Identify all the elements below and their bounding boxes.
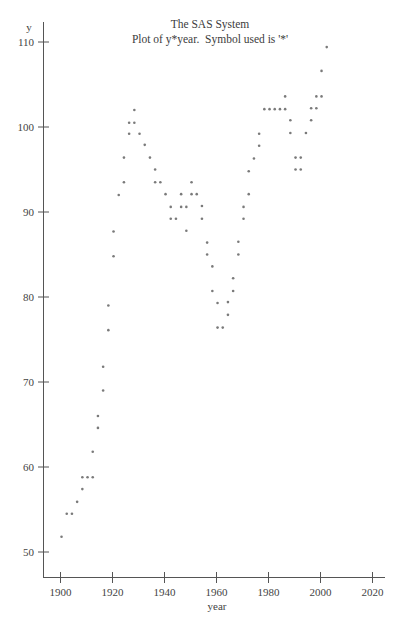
data-point-asterisk <box>201 205 204 208</box>
data-point-asterisk <box>128 121 131 124</box>
data-point-asterisk <box>206 241 209 244</box>
data-point-asterisk <box>112 255 115 258</box>
data-point-asterisk <box>149 156 152 159</box>
data-point-asterisk <box>91 450 94 453</box>
data-point-asterisk <box>310 107 313 110</box>
data-point-asterisk <box>123 181 126 184</box>
data-point-asterisk <box>71 512 74 515</box>
data-point-asterisk <box>242 218 245 221</box>
data-point-asterisk <box>221 326 224 329</box>
data-point-asterisk <box>211 265 214 268</box>
data-point-asterisk <box>102 365 105 368</box>
data-point-asterisk <box>195 193 198 196</box>
data-point-asterisk <box>185 229 188 232</box>
data-point-asterisk <box>81 488 84 491</box>
data-point-asterisk <box>154 168 157 171</box>
data-point-asterisk <box>279 108 282 111</box>
data-point-asterisk <box>242 206 245 209</box>
data-point-asterisk <box>201 218 204 221</box>
data-point-asterisk <box>117 194 120 197</box>
data-point-asterisk <box>133 109 136 112</box>
data-point-asterisk <box>190 181 193 184</box>
scatter-plot: y 5060708090100110 190019201940196019802… <box>0 0 397 622</box>
data-point-asterisk <box>107 304 110 307</box>
data-point-asterisk <box>86 476 89 479</box>
x-tick-label: 1980 <box>258 586 281 598</box>
data-point-asterisk <box>237 253 240 256</box>
data-point-asterisk <box>175 218 178 221</box>
data-point-asterisk <box>97 427 100 430</box>
data-point-asterisk <box>112 230 115 233</box>
data-point-asterisk <box>143 144 146 147</box>
data-point-asterisk <box>81 476 84 479</box>
data-point-asterisk <box>310 119 313 122</box>
x-tick-label: 1900 <box>50 586 73 598</box>
data-point-asterisk <box>123 156 126 159</box>
y-axis: y 5060708090100110 <box>18 21 50 578</box>
data-point-asterisk <box>305 132 308 135</box>
data-point-asterisk <box>237 240 240 243</box>
data-point-asterisk <box>128 133 131 136</box>
x-tick-label: 1960 <box>206 586 229 598</box>
data-point-asterisk <box>216 302 219 305</box>
y-tick-label: 70 <box>23 376 35 388</box>
y-axis-label: y <box>26 21 32 33</box>
data-point-asterisk <box>289 119 292 122</box>
data-point-asterisk <box>232 290 235 293</box>
data-point-asterisk <box>320 95 323 98</box>
data-point-asterisk <box>315 107 318 110</box>
data-point-asterisk <box>289 132 292 135</box>
data-point-asterisk <box>320 70 323 73</box>
data-point-asterisk <box>159 181 162 184</box>
data-point-asterisk <box>107 329 110 332</box>
data-point-asterisk <box>294 156 297 159</box>
x-tick-label: 2000 <box>310 586 333 598</box>
x-axis-label: year <box>208 600 227 612</box>
data-point-asterisk <box>284 95 287 98</box>
data-point-asterisk <box>232 277 235 280</box>
data-point-asterisk <box>138 133 141 136</box>
data-points <box>60 46 328 538</box>
data-point-asterisk <box>206 253 209 256</box>
data-point-asterisk <box>91 476 94 479</box>
y-tick-label: 80 <box>23 291 35 303</box>
data-point-asterisk <box>258 133 261 136</box>
data-point-asterisk <box>294 168 297 171</box>
data-point-asterisk <box>154 181 157 184</box>
x-tick-label: 2020 <box>362 586 385 598</box>
y-tick-label: 60 <box>23 461 35 473</box>
y-tick-label: 110 <box>18 36 35 48</box>
data-point-asterisk <box>284 108 287 111</box>
y-tick-label: 100 <box>18 121 35 133</box>
data-point-asterisk <box>133 121 136 124</box>
data-point-asterisk <box>258 144 261 147</box>
data-point-asterisk <box>299 156 302 159</box>
data-point-asterisk <box>211 290 214 293</box>
data-point-asterisk <box>247 193 250 196</box>
data-point-asterisk <box>253 157 256 160</box>
x-tick-label: 1920 <box>102 586 125 598</box>
data-point-asterisk <box>65 512 68 515</box>
y-tick-label: 50 <box>23 546 35 558</box>
data-point-asterisk <box>247 170 250 173</box>
data-point-asterisk <box>169 218 172 221</box>
data-point-asterisk <box>268 108 271 111</box>
data-point-asterisk <box>325 46 328 49</box>
data-point-asterisk <box>227 314 230 317</box>
data-point-asterisk <box>180 193 183 196</box>
data-point-asterisk <box>60 535 63 538</box>
x-axis: 1900192019401960198020002020 year <box>44 572 386 612</box>
data-point-asterisk <box>315 95 318 98</box>
data-point-asterisk <box>216 326 219 329</box>
data-point-asterisk <box>227 301 230 304</box>
y-tick-label: 90 <box>23 206 35 218</box>
data-point-asterisk <box>76 501 79 504</box>
data-point-asterisk <box>263 108 266 111</box>
data-point-asterisk <box>169 206 172 209</box>
data-point-asterisk <box>164 193 167 196</box>
data-point-asterisk <box>273 108 276 111</box>
data-point-asterisk <box>299 168 302 171</box>
data-point-asterisk <box>180 206 183 209</box>
x-tick-label: 1940 <box>154 586 177 598</box>
data-point-asterisk <box>190 193 193 196</box>
